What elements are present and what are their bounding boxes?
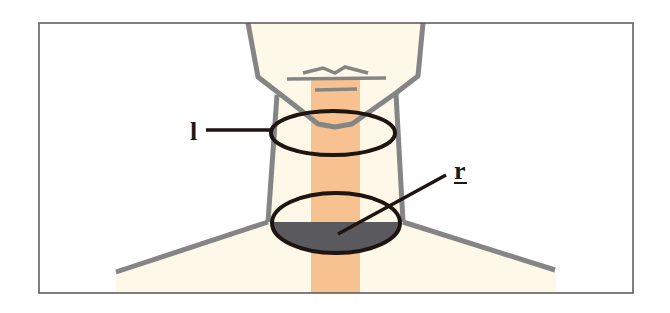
- lip-line: [287, 78, 386, 79]
- neck-diagram: l r: [0, 0, 670, 313]
- chin-crease: [315, 89, 357, 90]
- label-r: r: [454, 156, 466, 185]
- label-l: l: [190, 117, 197, 146]
